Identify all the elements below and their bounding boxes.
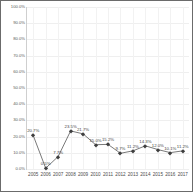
y-axis-tick-label: 90.0% bbox=[13, 21, 25, 25]
x-axis-tick-label: 2010 bbox=[90, 173, 100, 178]
x-axis-tick-label: 2017 bbox=[178, 173, 188, 178]
x-axis-tick-label: 2013 bbox=[128, 173, 138, 178]
data-point-label: 9.7% bbox=[116, 147, 126, 151]
x-axis-tick-label: 2005 bbox=[28, 173, 38, 178]
data-point-label: 10.1% bbox=[164, 146, 176, 150]
data-point-label: 20.7% bbox=[27, 129, 39, 133]
data-point-label: 7.7% bbox=[53, 150, 63, 154]
x-axis-tick-label: 2012 bbox=[115, 173, 125, 178]
y-axis-tick-label: 20.0% bbox=[13, 134, 25, 138]
data-point-marker bbox=[94, 143, 98, 147]
data-point-label: 11.2% bbox=[127, 145, 139, 149]
y-axis-tick-label: 80.0% bbox=[13, 37, 25, 41]
data-point-label: 21.7% bbox=[77, 128, 89, 132]
y-axis-tick-label: 100.0% bbox=[11, 5, 25, 9]
x-axis-tick-label: 2006 bbox=[41, 173, 51, 178]
x-axis-tick-label: 2011 bbox=[103, 173, 113, 178]
x-axis-tick-label: 2007 bbox=[53, 173, 63, 178]
y-axis-tick-label: 10.0% bbox=[13, 151, 25, 155]
y-axis-tick-label: 30.0% bbox=[13, 118, 25, 122]
data-point-label: 0.5% bbox=[41, 162, 51, 166]
y-axis-tick-label: 50.0% bbox=[13, 86, 25, 90]
x-axis-tick-label: 2008 bbox=[65, 173, 75, 178]
data-point-label: 23.5% bbox=[65, 125, 77, 129]
x-axis-tick-label: 2009 bbox=[78, 173, 88, 178]
x-axis-tick-label: 2014 bbox=[140, 173, 150, 178]
x-axis-tick-label: 2016 bbox=[165, 173, 175, 178]
data-point-label: 15.0% bbox=[89, 138, 101, 142]
chart-container: 100.0%90.0%80.0%70.0%60.0%50.0%40.0%30.0… bbox=[0, 0, 193, 192]
plot-area: 100.0%90.0%80.0%70.0%60.0%50.0%40.0%30.0… bbox=[26, 7, 189, 170]
y-axis-tick-label: 70.0% bbox=[13, 53, 25, 57]
data-point-label: 12.0% bbox=[152, 143, 164, 147]
y-axis-tick-label: 0.0% bbox=[15, 167, 25, 171]
y-axis-tick-label: 40.0% bbox=[13, 102, 25, 106]
x-axis-tick-label: 2015 bbox=[153, 173, 163, 178]
data-point-label: 14.3% bbox=[139, 140, 151, 144]
y-axis-tick-label: 60.0% bbox=[13, 70, 25, 74]
gridline bbox=[27, 169, 189, 170]
data-point-label: 11.2% bbox=[177, 145, 189, 149]
data-point-label: 15.2% bbox=[102, 138, 114, 142]
